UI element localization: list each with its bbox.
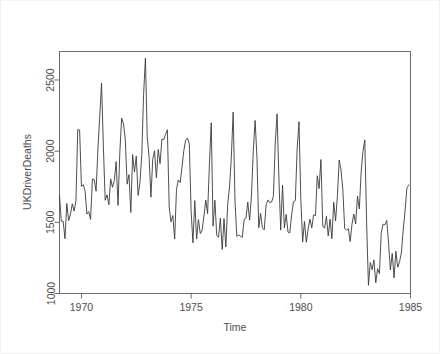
y-tick-label: 2000: [45, 139, 57, 163]
line-chart-canvas: 1000150020002500 1970197519801985 UKDriv…: [1, 1, 440, 354]
x-axis-tick-labels: 1970197519801985: [70, 301, 423, 313]
y-axis-tick-labels: 1000150020002500: [45, 68, 57, 305]
x-tick-label: 1980: [289, 301, 313, 313]
chart-figure: 1000150020002500 1970197519801985 UKDriv…: [0, 0, 440, 354]
x-tick-label: 1975: [179, 301, 203, 313]
series-line-ukdriverdeaths: [60, 58, 409, 285]
x-axis-title: Time: [224, 321, 247, 333]
y-tick-label: 1500: [45, 210, 57, 234]
x-axis-ticks: [81, 294, 410, 299]
plot-frame: [60, 52, 411, 294]
x-tick-label: 1970: [70, 301, 94, 313]
y-axis-ticks: [55, 80, 60, 294]
y-tick-label: 2500: [45, 68, 57, 92]
y-tick-label: 1000: [45, 282, 57, 306]
y-axis-title: UKDriverDeaths: [21, 134, 33, 210]
x-tick-label: 1985: [399, 301, 423, 313]
